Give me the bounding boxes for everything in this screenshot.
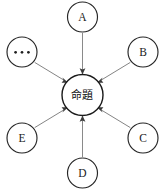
edge-b-center-line	[101, 62, 131, 80]
node-layer: A B C D E	[7, 2, 158, 188]
edge-c-center	[97, 107, 131, 127]
edge-d-center	[80, 116, 86, 158]
ellipsis-dot-1	[14, 51, 17, 54]
node-b-label: B	[139, 46, 147, 58]
node-e-label: E	[18, 132, 25, 144]
center-node[interactable]: 命題	[62, 75, 103, 116]
node-ellipsis[interactable]	[7, 37, 37, 67]
radial-diagram: A B C D E	[0, 0, 165, 190]
ellipsis-dot-2	[21, 51, 24, 54]
node-d-label: D	[78, 167, 86, 179]
center-node-label: 命題	[71, 88, 94, 102]
edge-e-center-line	[35, 110, 65, 128]
edge-ellipsis-center-line	[35, 62, 65, 80]
node-a-label: A	[78, 11, 87, 23]
node-d[interactable]: D	[68, 158, 98, 188]
ellipsis-dot-3	[27, 51, 30, 54]
node-b[interactable]: B	[128, 37, 158, 67]
node-e[interactable]: E	[7, 123, 37, 153]
node-c-label: C	[139, 132, 147, 144]
diagram-canvas: A B C D E	[0, 0, 165, 190]
edge-ellipsis-center	[35, 62, 68, 82]
edge-c-center-line	[101, 110, 131, 128]
edge-b-center	[97, 62, 131, 82]
node-c[interactable]: C	[128, 123, 158, 153]
edge-e-center	[35, 107, 68, 127]
edge-a-center	[80, 33, 86, 75]
node-a[interactable]: A	[68, 2, 98, 32]
